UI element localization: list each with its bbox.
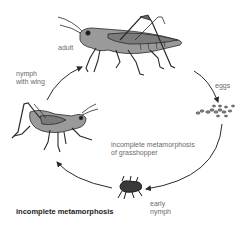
adult-grasshopper-drawing [58, 15, 182, 75]
arrow-early-nymph-to-nymph [57, 162, 112, 188]
diagram-title: incomplete metamorphosis [16, 207, 114, 216]
label-nymph-with-wing: nymph with wing [16, 70, 45, 86]
label-eggs: eggs [215, 82, 230, 90]
label-adult: adult [58, 44, 73, 52]
early-nymph-drawing [118, 176, 142, 199]
label-early-nymph: early nymph [150, 200, 171, 216]
life-cycle-illustration [0, 0, 249, 234]
arrow-nymph-to-adult [47, 67, 82, 100]
nymph-with-wing-drawing [12, 103, 98, 152]
eggs-drawing [196, 105, 235, 117]
center-caption: incomplete metamorphosis of grasshopper [111, 141, 195, 157]
